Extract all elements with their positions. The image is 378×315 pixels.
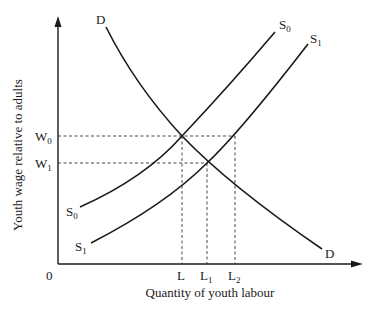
w0-label: W0 bbox=[35, 129, 52, 146]
l2-label: L2 bbox=[228, 268, 240, 285]
y-axis-arrow-icon bbox=[55, 16, 62, 27]
demand-top-label: D bbox=[96, 12, 105, 27]
y-axis-title: Youth wage relative to adults bbox=[10, 79, 25, 231]
supply-curve-s0 bbox=[80, 32, 275, 207]
s0-bottom-label: S0 bbox=[66, 204, 78, 221]
guide-lines bbox=[58, 136, 235, 264]
w1-label: W1 bbox=[35, 156, 52, 173]
s0-top-label: S0 bbox=[279, 17, 291, 34]
demand-bottom-label: D bbox=[325, 246, 334, 261]
supply-curve-s1 bbox=[91, 44, 308, 243]
s1-top-label: S1 bbox=[310, 31, 322, 48]
l-label: L bbox=[177, 268, 185, 283]
origin-label: 0 bbox=[46, 268, 53, 283]
supply-demand-diagram: D D S0 S1 S0 S1 W0 W1 0 L L1 L2 Quantity… bbox=[0, 0, 378, 315]
l1-label: L1 bbox=[200, 268, 212, 285]
s1-bottom-label: S1 bbox=[75, 239, 87, 256]
x-axis-arrow-icon bbox=[351, 261, 363, 268]
x-axis-title: Quantity of youth labour bbox=[146, 285, 276, 300]
axes bbox=[55, 16, 364, 268]
